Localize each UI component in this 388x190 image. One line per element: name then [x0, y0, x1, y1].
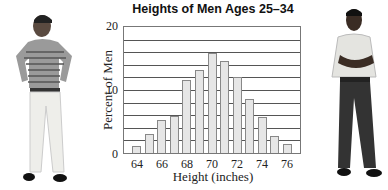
plot-area — [123, 26, 301, 154]
gridline — [124, 40, 300, 41]
bar-71 — [220, 61, 229, 153]
right-person-illustration — [324, 5, 386, 183]
y-tick-20: 20 — [98, 20, 118, 32]
x-axis-label: Height (inches) — [124, 169, 302, 185]
left-person-illustration — [8, 12, 83, 184]
bar-76 — [283, 144, 292, 153]
y-tick-10: 10 — [98, 84, 118, 96]
bar-64 — [132, 146, 141, 153]
y-tick-0: 0 — [98, 148, 118, 160]
bar-73 — [245, 99, 254, 153]
chart-title: Heights of Men Ages 25–34 — [124, 2, 302, 16]
bar-69 — [195, 70, 204, 153]
bar-67 — [170, 116, 179, 153]
bar-65 — [145, 134, 154, 153]
bar-66 — [157, 120, 166, 153]
bar-70 — [208, 53, 217, 153]
bar-72 — [233, 77, 242, 153]
bar-75 — [270, 136, 279, 153]
bar-68 — [182, 80, 191, 153]
bar-74 — [258, 117, 267, 153]
